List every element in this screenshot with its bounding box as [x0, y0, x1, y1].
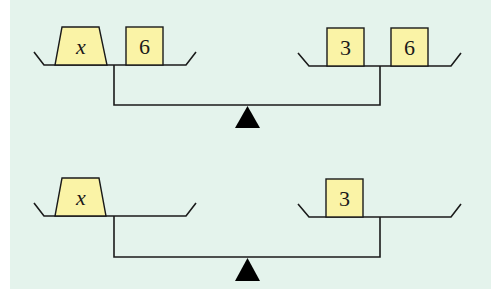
- block-label: 3: [339, 186, 350, 211]
- balance-diagram-panel: x 6 3 6: [10, 0, 491, 289]
- block-label: 6: [139, 34, 150, 59]
- bottom-left-block-x: x: [55, 178, 106, 216]
- top-right-block-3: 3: [327, 28, 364, 66]
- top-left-block-x: x: [55, 27, 107, 65]
- block-label: x: [75, 185, 86, 210]
- block-label: x: [75, 34, 86, 59]
- bottom-right-block-3: 3: [326, 179, 363, 217]
- top-left-block-6: 6: [126, 27, 163, 65]
- balance-diagram: x 6 3 6: [10, 0, 491, 289]
- block-label: 3: [340, 35, 351, 60]
- top-right-block-6: 6: [391, 28, 428, 66]
- block-label: 6: [404, 35, 415, 60]
